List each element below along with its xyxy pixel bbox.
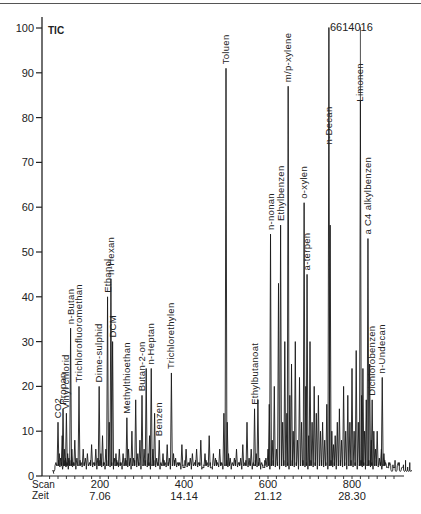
- y-tick-label: 10: [22, 425, 34, 437]
- peak-label: Ethylbenzen: [275, 166, 286, 222]
- x-tick-scan-label: 400: [175, 478, 193, 490]
- peak-label: n-Undecan: [376, 324, 387, 373]
- y-axis: 0102030405060708090100: [16, 17, 42, 482]
- y-tick-label: 20: [22, 380, 34, 392]
- peak-label: Benzen: [153, 402, 164, 436]
- peak-label: Toluen: [220, 35, 231, 65]
- x-tick-zeit-label: 28.30: [338, 490, 366, 502]
- peak-label: n-Heptan: [145, 323, 156, 364]
- x-tick-zeit-label: 14.14: [170, 490, 198, 502]
- peak-label: a C4 alkylbenzen: [362, 157, 373, 235]
- y-tick-label: 100: [16, 22, 34, 34]
- peak-label: m/p-xylene: [282, 33, 293, 82]
- x-tick-scan-label: 200: [91, 478, 109, 490]
- peak-label: Limonen: [354, 63, 365, 102]
- y-tick-label: 30: [22, 336, 34, 348]
- peak-label: Trichlorofluoromethan: [73, 284, 84, 382]
- peak-label: Methylthioethan: [121, 342, 132, 414]
- tic-chromatogram-chart: 0102030405060708090100 2007.0640014.1460…: [0, 0, 421, 514]
- peak-label: Trichlorethylen: [165, 303, 176, 369]
- peak-labels: CO2PropanVinyl chloridn-ButanTrichlorofl…: [52, 33, 387, 436]
- y-tick-label: 70: [22, 156, 34, 168]
- x-axis-scan-label: Scan: [32, 479, 55, 490]
- peak-label: DCM: [107, 315, 118, 338]
- y-tick-label: 90: [22, 67, 34, 79]
- peak-label: Ethylbutanoat: [249, 343, 260, 405]
- peak-label: a-terpen: [301, 233, 312, 271]
- y-tick-label: 80: [22, 112, 34, 124]
- peak-label: o-xylen: [298, 166, 309, 199]
- y-tick-label: 50: [22, 246, 34, 258]
- top-annotation: 6614016: [330, 21, 373, 33]
- peak-label: Dime-sulphid: [93, 323, 104, 382]
- y-tick-label: 60: [22, 201, 34, 213]
- x-axis: 2007.0640014.1460021.1280028.30: [42, 476, 404, 502]
- x-tick-scan-label: 800: [343, 478, 361, 490]
- x-tick-zeit-label: 21.12: [254, 490, 282, 502]
- tic-title: TIC: [48, 25, 64, 36]
- peak-label: n-Hexan: [105, 237, 116, 275]
- x-tick-zeit-label: 7.06: [89, 490, 110, 502]
- peak-label: Vinyl chlorid: [60, 354, 71, 409]
- peak-label: n-Decan: [323, 106, 334, 144]
- x-tick-scan-label: 600: [259, 478, 277, 490]
- x-axis-zeit-label: Zeit: [32, 490, 49, 501]
- y-tick-label: 40: [22, 291, 34, 303]
